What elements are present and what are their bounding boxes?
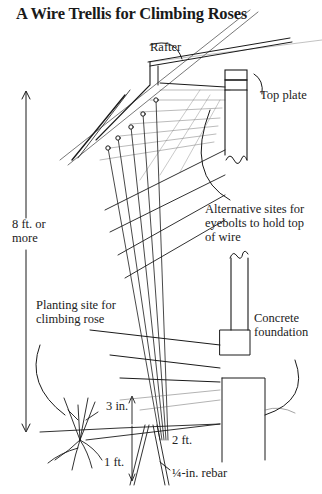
- height-label-line: 8 ft. or: [12, 217, 46, 231]
- alternative-sites-line: Alternative sites for: [205, 202, 304, 216]
- concrete-foundation-line: Concrete: [254, 311, 308, 325]
- planting-site-line: Planting site for: [36, 298, 116, 312]
- depth-label: 3 in.: [106, 399, 128, 413]
- planting-site-line: climbing rose: [36, 312, 116, 326]
- alternative-sites-line: eyebolts to hold top: [205, 216, 304, 230]
- distance-label: 2 ft.: [172, 433, 192, 447]
- trellis-illustration: [0, 0, 322, 494]
- rebar-depth-label: 1 ft.: [104, 455, 124, 469]
- top-plate-label: Top plate: [260, 88, 307, 102]
- height-label: 8 ft. or more: [12, 217, 46, 245]
- height-label-line: more: [12, 231, 46, 245]
- alternative-sites-label: Alternative sites for eyebolts to hold t…: [205, 202, 304, 244]
- concrete-foundation-label: Concrete foundation: [254, 311, 308, 339]
- rose-bush: [48, 398, 102, 470]
- rebar-label: ¼-in. rebar: [172, 466, 227, 480]
- rafter-label: Rafter: [150, 40, 181, 54]
- concrete-foundation-line: foundation: [254, 325, 308, 339]
- planting-site-label: Planting site for climbing rose: [36, 298, 116, 326]
- leader-lines: [36, 43, 299, 470]
- wall-post: [225, 70, 248, 330]
- height-dimension-line: [22, 91, 30, 432]
- alternative-sites-line: of wire: [205, 230, 304, 244]
